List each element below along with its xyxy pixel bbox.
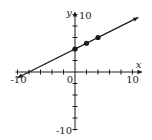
data-point <box>72 46 77 51</box>
data-point <box>95 35 100 40</box>
x-axis-label: x <box>136 59 142 70</box>
line-series <box>18 17 139 77</box>
origin-label: 0 <box>67 74 73 85</box>
x-max-tick-label: 10 <box>126 74 139 85</box>
plotted-line <box>18 17 139 77</box>
x-min-tick-label: -10 <box>10 74 26 85</box>
axes <box>16 12 143 131</box>
graph-svg: x y -10 10 -10 10 0 <box>0 0 152 140</box>
y-min-tick-label: -10 <box>56 125 72 136</box>
y-max-tick-label: 10 <box>79 10 92 21</box>
data-point <box>84 41 89 46</box>
coordinate-plane: x y -10 10 -10 10 0 <box>0 0 152 140</box>
y-axis-label: y <box>65 7 72 18</box>
